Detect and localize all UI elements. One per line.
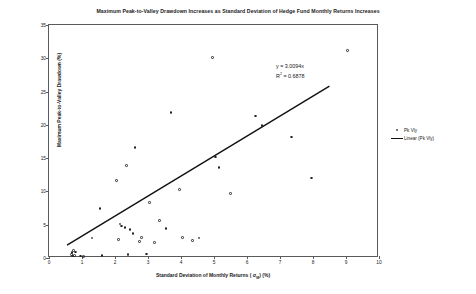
x-axis-tick-label: 0 xyxy=(48,260,51,265)
x-axis-tick-mark xyxy=(214,256,215,259)
data-point xyxy=(218,166,221,169)
y-axis-tick-mark xyxy=(46,25,49,26)
data-point xyxy=(261,124,264,127)
x-axis-tick-mark xyxy=(379,256,380,259)
data-point xyxy=(115,179,118,182)
data-point xyxy=(145,253,148,256)
y-axis-tick-mark xyxy=(46,191,49,192)
x-axis-tick-mark xyxy=(49,256,50,259)
chart-figure: Maximum Peak-to-Valley Drawdown Increase… xyxy=(0,0,476,294)
data-point xyxy=(101,254,104,257)
data-point xyxy=(191,239,194,242)
data-point xyxy=(346,49,349,52)
x-axis-tick-mark xyxy=(313,256,314,259)
data-point xyxy=(140,236,143,239)
x-axis-tick-label: 1 xyxy=(81,260,84,265)
x-axis-tick-label: 9 xyxy=(345,260,348,265)
x-axis-tick-label: 3 xyxy=(147,260,150,265)
data-point xyxy=(211,56,214,59)
data-point xyxy=(73,254,76,257)
x-axis-tick-label: 10 xyxy=(376,260,381,265)
legend-label-linear-pk-vly: Linear (Pk Vly) xyxy=(404,136,434,141)
legend-label-pk-vly: Pk Vly xyxy=(404,128,417,133)
y-axis-tick-mark xyxy=(46,58,49,59)
data-point xyxy=(214,156,217,159)
legend-marker-circle-icon xyxy=(390,129,404,132)
x-axis-label: Standard Deviation of Monthly Returns ( … xyxy=(48,272,378,280)
x-axis-tick-label: 5 xyxy=(213,260,216,265)
x-axis-tick-label: 4 xyxy=(180,260,183,265)
trend-line xyxy=(49,25,377,256)
y-axis-tick-mark xyxy=(46,225,49,226)
data-point xyxy=(158,219,161,222)
data-point xyxy=(117,238,120,241)
data-point xyxy=(138,240,141,243)
data-point xyxy=(129,228,132,231)
x-axis-tick-mark xyxy=(247,256,248,259)
x-axis-tick-mark xyxy=(148,256,149,259)
legend-marker-line-icon xyxy=(390,138,404,139)
data-point xyxy=(125,164,128,167)
x-axis-tick-label: 2 xyxy=(114,260,117,265)
chart-legend: Pk Vly Linear (Pk Vly) xyxy=(390,126,434,142)
regression-annotation: y = 3.0094x R2 = 0.6878 xyxy=(276,62,305,80)
data-point xyxy=(178,188,181,191)
plot-area: Maximum Peak-to-Valley Drawdown (%) y = … xyxy=(48,24,378,257)
data-point xyxy=(290,136,293,139)
data-point xyxy=(181,236,184,239)
x-axis-tick-label: 7 xyxy=(279,260,282,265)
legend-item-pk-vly: Pk Vly xyxy=(390,126,434,134)
x-axis-tick-mark xyxy=(280,256,281,259)
x-axis-tick-mark xyxy=(181,256,182,259)
x-axis-tick-mark xyxy=(115,256,116,259)
data-point xyxy=(79,255,82,258)
chart-title: Maximum Peak-to-Valley Drawdown Increase… xyxy=(0,8,476,14)
data-point xyxy=(148,201,151,204)
regression-r-squared: R2 = 0.6878 xyxy=(276,70,305,80)
y-axis-tick-mark xyxy=(46,125,49,126)
data-point xyxy=(134,146,137,149)
data-point xyxy=(82,255,85,258)
x-axis-tick-label: 8 xyxy=(312,260,315,265)
x-axis-tick-mark xyxy=(346,256,347,259)
data-point xyxy=(229,192,232,195)
x-axis-tick-label: 6 xyxy=(246,260,249,265)
legend-item-linear-pk-vly: Linear (Pk Vly) xyxy=(390,134,434,142)
y-axis-tick-mark xyxy=(46,92,49,93)
data-point xyxy=(124,226,127,229)
y-axis-tick-mark xyxy=(46,158,49,159)
data-point xyxy=(153,241,156,244)
regression-equation: y = 3.0094x xyxy=(276,62,305,70)
